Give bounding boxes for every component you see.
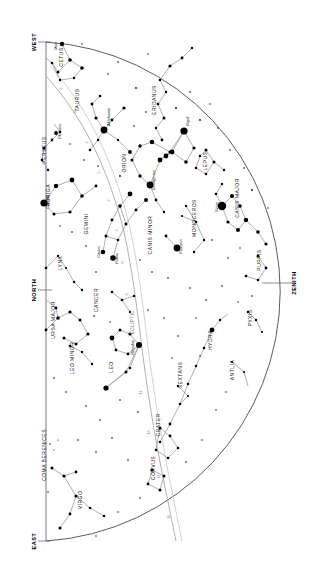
- constellation-label-virgo: VIRGO: [77, 491, 83, 510]
- star-regulus: [136, 342, 142, 348]
- star-label-aldebaran: Aldebaran: [106, 107, 111, 127]
- constellation-label-lepus: LEPUS: [202, 151, 208, 170]
- star-sirius: [218, 202, 226, 210]
- constellation-label-sextans: SEXTANS: [177, 362, 183, 389]
- star-label-castor: Castor: [96, 246, 101, 258]
- constellation-label-leo-minor: LEO MINOR: [69, 342, 75, 375]
- constellation-label-canis-minor: CANIS MINOR: [147, 216, 153, 255]
- hour-mark-12h: 12ʰ: [147, 429, 151, 435]
- constellation-label-leo: LEO: [108, 361, 114, 373]
- star-label-mira: Mira: [53, 41, 58, 50]
- cardinal-label-east: EAST: [31, 532, 37, 549]
- constellation-label-orion: ORION: [121, 154, 127, 173]
- constellation-label-gemini: GEMINI: [83, 214, 89, 235]
- hour-mark-10h: 10ʰ: [131, 347, 135, 353]
- constellation-label-monoceros: MONOCEROS: [191, 199, 197, 237]
- constellation-label-coma-berenices: COMA BERENICES: [41, 429, 47, 481]
- ecliptic-label: ECLIPTIC: [130, 310, 135, 335]
- constellation-label-ursa-major: URSA MAJOR: [50, 301, 56, 339]
- star-label-pleiades: Pleiades: [57, 124, 62, 139]
- hour-mark-14h: 14ʰ: [167, 513, 171, 519]
- constellation-label-corvus: CORVUS: [150, 456, 156, 480]
- constellation-label-canis-major: CANIS MAJOR: [234, 178, 240, 218]
- constellation-label-cetus: CETUS: [58, 47, 64, 67]
- star-aldebaran: [101, 127, 108, 134]
- cardinal-label-zenith: ZENITH: [291, 271, 297, 295]
- constellation-label-eridanus: ERIDANUS: [151, 85, 157, 115]
- star-label-sirius: Sirius: [214, 202, 219, 212]
- constellation-label-hydra: HYDRA: [207, 330, 213, 350]
- constellation-label-lynx: LYNX: [57, 255, 63, 270]
- constellation-label-cancer: CANCER: [93, 288, 99, 312]
- hour-mark-11h: 11ʰ: [139, 389, 143, 395]
- star-label-capella: Capella: [45, 195, 50, 209]
- sky-chart-svg: WEST NORTH EAST ZENITH CETUS TAURUS PERS…: [0, 0, 314, 575]
- star-mira: [60, 42, 64, 46]
- star-label-pollux: Pollux: [114, 252, 119, 264]
- hour-mark-13h: 13ʰ: [157, 473, 161, 479]
- star-label-betelgeuse: Betelgeuse: [151, 169, 156, 190]
- star-label-rigel: Rigel: [185, 117, 190, 126]
- star-label-procyon: Procyon: [178, 239, 183, 254]
- cardinal-label-north: NORTH: [31, 279, 37, 302]
- constellation-label-taurus: TAURUS: [74, 88, 80, 111]
- cardinal-label-west: WEST: [31, 33, 37, 51]
- star-castor: [101, 250, 106, 255]
- star-chart: WEST NORTH EAST ZENITH CETUS TAURUS PERS…: [0, 0, 314, 575]
- constellation-label-pyxis: PYXIS: [247, 309, 253, 326]
- constellation-label-antlia: ANTLIA: [229, 360, 235, 381]
- constellation-label-puppis: PUPPIS: [256, 249, 262, 271]
- constellation-label-crater: CRATER: [155, 413, 161, 436]
- star-rigel: [180, 127, 187, 134]
- constellation-label-perseus: PERSEUS: [41, 136, 47, 164]
